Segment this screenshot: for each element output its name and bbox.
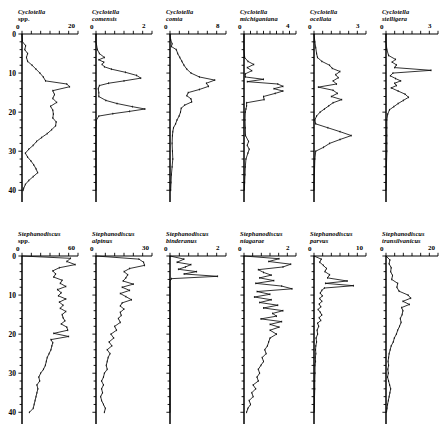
panel-species: comensis: [92, 15, 166, 22]
x-axis-min-label: 0: [308, 245, 312, 253]
panel-plot: [240, 246, 308, 428]
x-axis-max-label: 20: [428, 244, 435, 252]
panel-plot: [18, 24, 90, 206]
panel-species: binderanus: [166, 237, 240, 244]
panel-plot: [310, 24, 378, 206]
depth-label: 10: [0, 69, 16, 78]
panel-title: Stephanodiscusbinderanus: [166, 230, 240, 244]
panel-plot: [240, 24, 308, 206]
depth-label: 30: [0, 147, 16, 156]
depth-label: 40: [0, 408, 16, 417]
panel-title: Cyclotellacomensis: [92, 8, 166, 22]
x-axis-min-label: 0: [164, 23, 168, 31]
x-axis-min-label: 0: [238, 23, 242, 31]
abundance-curve: [244, 256, 292, 412]
x-axis-max-label: 2: [286, 244, 290, 252]
panel-genus: Stephanodiscus: [92, 230, 166, 237]
panel-genus: Stephanodiscus: [166, 230, 240, 237]
x-axis-min-label: 0: [238, 245, 242, 253]
diatom-stratigraphic-figure: Cyclotellaspp.020Cyclotellacomensis02Cyc…: [0, 0, 446, 443]
depth-label: 40: [0, 186, 16, 195]
panel-title: Cyclotellaocellata: [310, 8, 380, 22]
x-axis-min-label: 0: [90, 245, 94, 253]
panel-species: parvus: [310, 237, 380, 244]
x-axis-min-label: 0: [16, 245, 20, 253]
panel-genus: Stephanodiscus: [382, 230, 446, 237]
x-axis-min-label: 0: [308, 23, 312, 31]
depth-label: 10: [0, 291, 16, 300]
abundance-curve: [170, 256, 218, 412]
abundance-curve: [244, 34, 283, 190]
abundance-curve: [314, 34, 351, 190]
panel-title: Stephanodiscusparvus: [310, 230, 380, 244]
abundance-curve: [386, 256, 411, 412]
x-axis-min-label: 0: [16, 23, 20, 31]
x-axis-max-label: 60: [68, 244, 75, 252]
x-axis-max-label: 4: [286, 22, 290, 30]
x-axis-min-label: 0: [380, 245, 384, 253]
panel-genus: Cyclotella: [310, 8, 380, 15]
panel-genus: Stephanodiscus: [310, 230, 380, 237]
panel-title: Stephanodiscustransilvanicus: [382, 230, 446, 244]
x-axis-min-label: 0: [90, 23, 94, 31]
panel-title: Cyclotellastelligera: [382, 8, 446, 22]
depth-label: 0: [0, 30, 16, 39]
depth-label: 30: [0, 369, 16, 378]
panel-species: comta: [166, 15, 240, 22]
panel-species: transilvanicus: [382, 237, 446, 244]
panel-genus: Cyclotella: [240, 8, 310, 15]
panel-species: spp.: [18, 15, 92, 22]
panel-plot: [92, 24, 164, 206]
abundance-curve: [22, 34, 70, 190]
panel-plot: [18, 246, 90, 428]
x-axis-max-label: 2: [142, 22, 146, 30]
panel-species: alpinus: [92, 237, 166, 244]
x-axis-max-label: 8: [216, 22, 220, 30]
x-axis-max-label: 20: [68, 22, 75, 30]
x-axis-max-label: 3: [428, 22, 432, 30]
panel-genus: Cyclotella: [166, 8, 240, 15]
panel-genus: Cyclotella: [18, 8, 92, 15]
x-axis-max-label: 2: [216, 244, 220, 252]
abundance-curve: [170, 34, 215, 190]
depth-label: 20: [0, 330, 16, 339]
panel-plot: [382, 246, 446, 428]
panel-title: Stephanodiscusspp.: [18, 230, 92, 244]
panel-plot: [92, 246, 164, 428]
abundance-curve: [96, 34, 145, 190]
panel-genus: Stephanodiscus: [240, 230, 310, 237]
depth-label: 20: [0, 108, 16, 117]
x-axis-max-label: 10: [356, 244, 363, 252]
panel-genus: Cyclotella: [382, 8, 446, 15]
abundance-curve: [386, 34, 431, 190]
x-axis-min-label: 0: [164, 245, 168, 253]
depth-label: 0: [0, 252, 16, 261]
abundance-curve: [96, 256, 145, 412]
panel-plot: [382, 24, 446, 206]
panel-species: spp.: [18, 237, 92, 244]
panel-species: stelligera: [382, 15, 446, 22]
abundance-curve: [22, 256, 75, 412]
panel-plot: [310, 246, 378, 428]
panel-species: niagarae: [240, 237, 310, 244]
panel-plot: [166, 24, 238, 206]
panel-species: michiganiana: [240, 15, 310, 22]
panel-title: Cyclotellacomta: [166, 8, 240, 22]
x-axis-max-label: 3: [356, 22, 360, 30]
panel-title: Stephanodiscusniagarae: [240, 230, 310, 244]
x-axis-min-label: 0: [380, 23, 384, 31]
panel-genus: Cyclotella: [92, 8, 166, 15]
x-axis-max-label: 30: [142, 244, 149, 252]
panel-title: Stephanodiscusalpinus: [92, 230, 166, 244]
panel-plot: [166, 246, 238, 428]
panel-title: Cyclotellamichiganiana: [240, 8, 310, 22]
panel-species: ocellata: [310, 15, 380, 22]
panel-title: Cyclotellaspp.: [18, 8, 92, 22]
panel-genus: Stephanodiscus: [18, 230, 92, 237]
abundance-curve: [314, 256, 354, 412]
